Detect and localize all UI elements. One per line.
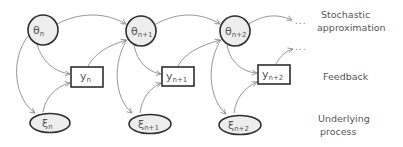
xi-n1-subscript: n+1 xyxy=(144,124,159,132)
row-label-underlying-process: Underlying process xyxy=(318,113,370,137)
xi-n2-subscript: n+2 xyxy=(234,125,249,133)
continuation-dots-top: ... xyxy=(295,16,307,26)
y-node-n: yn xyxy=(71,67,103,87)
xi-node-n1: ξn+1 xyxy=(129,115,171,134)
xi-node-n: ξn xyxy=(30,114,70,133)
edge-theta-n1-to-y-n1 xyxy=(134,45,161,74)
edge-theta-n1-to-xi-n1 xyxy=(117,38,132,113)
edge-theta-n2-to-y-n2 xyxy=(227,45,257,73)
xi-node-n2: ξn+2 xyxy=(219,116,261,135)
y-node-n1: yn+1 xyxy=(162,67,194,86)
y-node-n2: yn+2 xyxy=(258,65,290,84)
y-n2-subscript: n+2 xyxy=(269,74,284,82)
edge-y-n1-to-theta-n2 xyxy=(178,40,220,66)
edge-y-n2-to-continuation xyxy=(276,49,293,64)
edge-xi-n-to-y-n xyxy=(43,83,70,112)
label-stochastic: Stochastic xyxy=(321,9,370,20)
edge-theta-n2-to-xi-n2 xyxy=(211,38,226,114)
edge-theta-n-to-y-n xyxy=(37,44,70,74)
theta-n2-subscript: n+2 xyxy=(232,31,247,39)
edge-xi-n2-to-y-n2 xyxy=(234,82,257,113)
label-process: process xyxy=(320,126,357,137)
xi-n-subscript: n xyxy=(48,123,52,131)
label-approximation: approximation xyxy=(317,22,386,33)
row-label-stochastic-approximation: Stochastic approximation xyxy=(317,9,386,33)
label-underlying: Underlying xyxy=(318,113,370,124)
theta-node-n1: θn+1 xyxy=(126,16,156,46)
theta-n1-subscript: n+1 xyxy=(138,31,153,39)
stochastic-approximation-diagram: ... ... θn θn+1 θn+2 yn yn+1 yn+2 xyxy=(0,0,403,147)
theta-node-n2: θn+2 xyxy=(220,16,250,46)
theta-node-n: θn xyxy=(28,15,58,45)
edge-theta-n-to-theta-n1 xyxy=(57,15,126,24)
y-n1-subscript: n+1 xyxy=(173,76,188,84)
y-n-subscript: n xyxy=(87,76,91,84)
edge-xi-n1-to-y-n1 xyxy=(140,83,161,113)
edge-theta-n2-to-continuation xyxy=(249,16,292,24)
row-label-feedback: Feedback xyxy=(323,71,369,82)
continuation-dots-middle: ... xyxy=(295,42,307,52)
theta-n-subscript: n xyxy=(40,30,44,38)
edge-theta-n-to-xi-n xyxy=(17,36,35,113)
edge-theta-n1-to-theta-n2 xyxy=(156,15,220,24)
